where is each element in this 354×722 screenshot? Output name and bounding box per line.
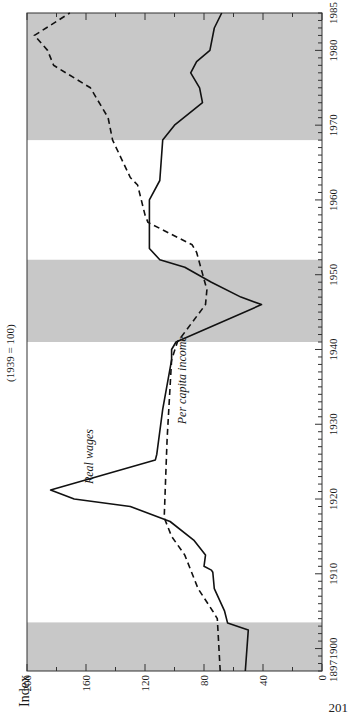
rotated-chart: 1897190019101920193019401950196019701980… bbox=[0, 0, 354, 722]
year-tick-label: 1950 bbox=[327, 263, 339, 286]
series-label-per-capita-income: Per capita income bbox=[175, 336, 189, 426]
index-tick-label: 160 bbox=[80, 675, 92, 692]
index-tick-label: 40 bbox=[257, 675, 269, 687]
shaded-period bbox=[27, 622, 322, 671]
year-tick-label: 1980 bbox=[327, 39, 339, 62]
shaded-period bbox=[27, 260, 322, 342]
year-tick-label: 1930 bbox=[327, 413, 339, 436]
year-tick-label: 1940 bbox=[327, 338, 339, 361]
y-axis-label: Index bbox=[17, 675, 32, 707]
chart-subtitle: (1939 = 100) bbox=[4, 324, 17, 382]
index-tick-label: 0 bbox=[316, 675, 328, 681]
line-chart: 1897190019101920193019401950196019701980… bbox=[0, 0, 354, 722]
year-tick-label: 1960 bbox=[327, 188, 339, 211]
index-tick-label: 120 bbox=[139, 675, 151, 692]
index-tick-label: 80 bbox=[198, 675, 210, 687]
year-tick-label: 1900 bbox=[327, 637, 339, 660]
year-tick-label: 1920 bbox=[327, 488, 339, 511]
year-tick-label: 1970 bbox=[327, 114, 339, 137]
series-label-real-wages: Real wages bbox=[82, 429, 96, 485]
year-tick-label: 1910 bbox=[327, 562, 339, 585]
page-number: 201 bbox=[329, 700, 349, 716]
year-tick-label: 1985 bbox=[327, 2, 339, 25]
year-tick-label: 1897 bbox=[327, 660, 339, 683]
